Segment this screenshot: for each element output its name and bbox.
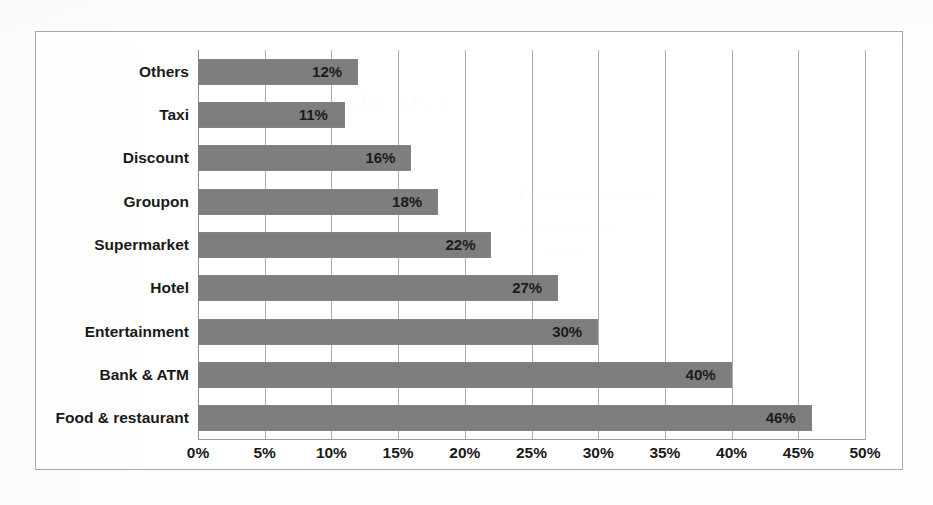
bar-entertainment <box>198 319 598 345</box>
bar-bank-atm <box>198 362 732 388</box>
bar-value-label: 46% <box>766 405 796 431</box>
bar-value-label: 11% <box>299 102 328 128</box>
bar-food-restaurant <box>198 405 812 431</box>
bar-value-label: 30% <box>552 319 582 345</box>
xtick-label: 45% <box>783 444 814 462</box>
xtick-label: 40% <box>716 444 747 462</box>
bar-value-label: 16% <box>365 145 395 171</box>
category-label-others: Others <box>139 59 198 85</box>
bar-hotel <box>198 275 558 301</box>
xtick-label: 5% <box>253 444 275 462</box>
bar-row: 11% <box>198 102 865 128</box>
bar-value-label: 27% <box>512 275 542 301</box>
xtick-label: 0% <box>187 444 209 462</box>
bar-row: 30% <box>198 319 865 345</box>
bar-row: 27% <box>198 275 865 301</box>
category-label-bank-atm: Bank & ATM <box>99 362 198 388</box>
bar-row: 40% <box>198 362 865 388</box>
category-label-hotel: Hotel <box>150 275 198 301</box>
bar-value-label: 40% <box>686 362 716 388</box>
xtick-label: 10% <box>316 444 347 462</box>
xtick-label: 35% <box>649 444 680 462</box>
bar-value-label: 22% <box>445 232 475 258</box>
xtick-label: 20% <box>449 444 480 462</box>
bar-row: 12% <box>198 59 865 85</box>
bar-value-label: 12% <box>312 59 342 85</box>
bar-value-label: 18% <box>392 189 422 215</box>
bar-row: 46% <box>198 405 865 431</box>
value-axis-line <box>198 439 865 440</box>
category-label-discount: Discount <box>123 145 198 171</box>
bar-row: 16% <box>198 145 865 171</box>
bar-row: 22% <box>198 232 865 258</box>
category-label-entertainment: Entertainment <box>85 319 198 345</box>
category-label-food-restaurant: Food & restaurant <box>56 405 198 431</box>
category-label-groupon: Groupon <box>124 189 198 215</box>
ghost-text: . . <box>470 487 482 504</box>
category-label-taxi: Taxi <box>159 102 198 128</box>
value-axis-tick-labels: 0%5%10%15%20%25%30%35%40%45%50% <box>198 444 865 470</box>
category-label-supermarket: Supermarket <box>94 232 198 258</box>
xtick-label: 15% <box>383 444 414 462</box>
plot-area: 12%11%16%18%22%27%30%40%46% <box>198 50 865 440</box>
scanned-page-background: a, ... fy i .. d n ... i...i .. . . . . … <box>0 0 933 505</box>
xtick-label: 25% <box>516 444 547 462</box>
bar-series: 12%11%16%18%22%27%30%40%46% <box>198 50 865 440</box>
xtick-label: 30% <box>583 444 614 462</box>
xtick-label: 50% <box>849 444 880 462</box>
bar-row: 18% <box>198 189 865 215</box>
category-axis-labels: OthersTaxiDiscountGrouponSupermarketHote… <box>36 50 198 440</box>
chart-frame: OthersTaxiDiscountGrouponSupermarketHote… <box>35 31 903 470</box>
gridline-50% <box>865 50 866 440</box>
